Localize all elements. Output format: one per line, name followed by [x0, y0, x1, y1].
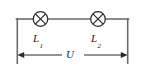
voltage-arrowhead-left	[17, 52, 24, 58]
voltage-arrowhead-right	[121, 52, 128, 58]
voltage-label: U	[66, 45, 74, 61]
circuit-diagram-figure: L1 L2 U	[0, 0, 145, 71]
lamp1-label-subscript: 1	[39, 42, 43, 50]
lamp-symbol-l2	[91, 12, 106, 27]
voltage-label-text: U	[66, 48, 74, 60]
lamp-symbol-l1	[33, 12, 48, 27]
lamp2-label: L2	[91, 29, 101, 48]
lamp1-label: L1	[33, 29, 43, 48]
lamp2-label-subscript: 2	[97, 42, 101, 50]
